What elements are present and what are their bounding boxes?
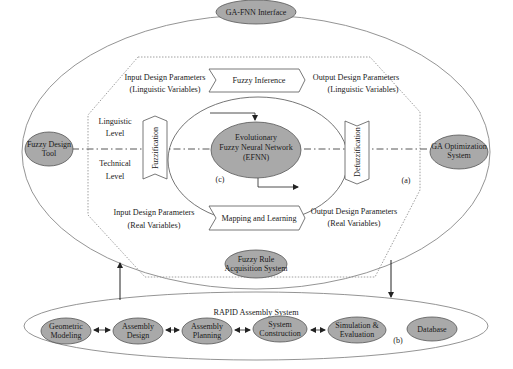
ga-optimization-system-node: GA Optimization System [430,135,488,169]
svg-text:GA Optimization: GA Optimization [431,142,486,151]
svg-text:(EFNN): (EFNN) [243,153,270,162]
label-a: (a) [402,176,411,185]
svg-text:System: System [268,320,292,329]
lower-output-label-2: (Real Variables) [328,219,381,228]
defuzzification-block: Defuzzification [345,121,369,184]
upper-input-label-1: Input Design Parameters [125,73,206,82]
svg-text:Evaluation: Evaluation [340,330,375,339]
fuzzy-design-tool-node: Fuzzy Design Tool [25,132,73,166]
lower-input-label-1: Input Design Parameters [114,208,195,217]
efnn-node: Evolutionary Fuzzy Neural Network (EFNN) [211,122,301,178]
ga-fnn-interface-node: GA-FNN Interface [216,0,296,24]
fuzzy-rule-acquisition-node: Fuzzy Rule Acquisition System [225,250,289,278]
svg-text:Fuzzy Inference: Fuzzy Inference [233,76,286,85]
svg-text:Fuzzy Neural Network: Fuzzy Neural Network [219,143,292,152]
rapid-node-assembly-design: Assembly Design [113,318,163,344]
efnn-output-arrow [258,178,298,187]
svg-text:Design: Design [127,331,150,340]
technical-level-label-2: Level [106,172,125,181]
upper-input-label-2: (Linguistic Variables) [129,85,200,94]
diagram-canvas: GA-FNN Interface Fuzzy Design Tool GA Op… [0,0,513,369]
rapid-node-database: Database [407,317,457,341]
svg-text:Fuzzy Design: Fuzzy Design [27,140,71,149]
rapid-node-geometric-modeling: Geometric Modeling [41,318,91,344]
fuzzification-block: Fuzzification [143,116,167,179]
mapping-and-learning-chevron: Mapping and Learning [209,206,305,230]
rapid-node-system-construction: System Construction [253,316,307,342]
label-b: (b) [393,336,403,345]
upper-output-label-2: (Linguistic Variables) [327,85,398,94]
svg-text:Database: Database [417,325,447,334]
svg-text:Planning: Planning [193,331,221,340]
svg-text:Modeling: Modeling [50,331,81,340]
svg-text:Mapping and Learning: Mapping and Learning [221,214,296,223]
svg-text:Assembly: Assembly [191,322,223,331]
svg-text:Construction: Construction [259,329,300,338]
svg-text:Simulation &: Simulation & [335,321,379,330]
svg-text:Tool: Tool [42,149,57,158]
linguistic-level-label-2: Level [106,129,125,138]
svg-text:Assembly: Assembly [122,322,154,331]
rapid-node-assembly-planning: Assembly Planning [182,318,232,344]
technical-level-label-1: Technical [99,159,131,168]
fuzzy-inference-chevron: Fuzzy Inference [209,69,305,92]
svg-text:Fuzzy Rule: Fuzzy Rule [238,255,275,264]
svg-text:Acquisition System: Acquisition System [225,264,289,273]
svg-text:Defuzzification: Defuzzification [353,127,362,177]
linguistic-level-label-1: Linguistic [98,117,132,126]
svg-text:Fuzzification: Fuzzification [151,127,160,169]
label-c: (c) [216,175,225,184]
lower-output-label-1: Output Design Parameters [311,207,397,216]
svg-text:Geometric: Geometric [49,322,83,331]
rapid-node-simulation-evaluation: Simulation & Evaluation [328,317,386,343]
svg-text:System: System [447,151,471,160]
lower-input-label-2: (Real Variables) [128,221,181,230]
rapid-system-title: RAPID Assembly System [213,308,299,317]
svg-text:Evolutionary: Evolutionary [235,133,277,142]
efnn-input-arrow [210,113,255,120]
upper-output-label-1: Output Design Parameters [313,73,399,82]
ga-fnn-interface-label: GA-FNN Interface [226,8,287,17]
